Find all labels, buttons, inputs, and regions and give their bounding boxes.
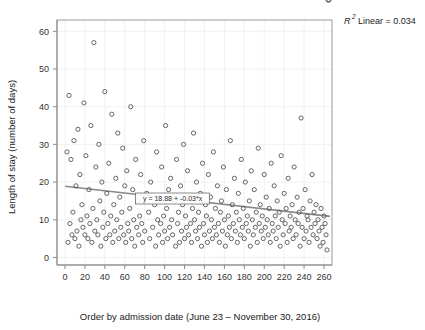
data-point <box>252 188 256 192</box>
data-point <box>207 229 211 233</box>
data-point <box>217 240 221 244</box>
data-point <box>260 214 264 218</box>
data-point <box>304 229 308 233</box>
data-point <box>85 214 89 218</box>
data-point <box>131 188 135 192</box>
data-point <box>303 188 307 192</box>
data-point <box>141 240 145 244</box>
data-point <box>264 195 268 199</box>
data-point <box>273 214 277 218</box>
data-point <box>301 206 305 210</box>
data-point <box>148 237 152 241</box>
data-point <box>283 221 287 225</box>
equation-text: y = 18.88 + -0.03*x <box>143 195 203 203</box>
x-tick-label: 160 <box>217 272 232 282</box>
data-point <box>288 214 292 218</box>
data-point <box>134 157 138 161</box>
r-squared-value-text: Linear = 0.034 <box>358 16 416 26</box>
data-point <box>311 233 315 237</box>
data-point <box>155 150 159 154</box>
data-point <box>226 214 230 218</box>
data-point <box>142 139 146 143</box>
data-point <box>173 244 177 248</box>
data-point <box>78 172 82 176</box>
data-point <box>176 210 180 214</box>
data-point <box>213 206 217 210</box>
data-point <box>114 176 118 180</box>
data-point <box>162 214 166 218</box>
data-point <box>154 244 158 248</box>
data-point <box>294 233 298 237</box>
data-point <box>122 233 126 237</box>
x-tick-label: 120 <box>177 272 192 282</box>
data-point <box>164 123 168 127</box>
data-point <box>77 244 81 248</box>
data-point <box>195 237 199 241</box>
data-point <box>286 176 290 180</box>
data-point <box>133 244 137 248</box>
data-point <box>107 161 111 165</box>
data-point <box>247 199 251 203</box>
data-point <box>324 233 328 237</box>
y-tick-label: 40 <box>39 102 49 112</box>
data-point <box>220 229 224 233</box>
data-point <box>251 233 255 237</box>
x-tick-label: 80 <box>140 272 150 282</box>
data-point <box>65 150 69 154</box>
data-point <box>310 172 314 176</box>
data-point <box>179 229 183 233</box>
data-point <box>275 199 279 203</box>
data-point <box>318 244 322 248</box>
data-point <box>272 184 276 188</box>
data-point <box>232 176 236 180</box>
data-point <box>160 165 164 169</box>
data-point <box>325 248 329 252</box>
data-point <box>178 184 182 188</box>
data-point <box>93 229 97 233</box>
data-point <box>320 225 324 229</box>
x-tick-label: 40 <box>100 272 110 282</box>
data-point <box>214 233 218 237</box>
data-point <box>88 221 92 225</box>
data-point <box>113 229 117 233</box>
data-point <box>106 221 110 225</box>
data-point <box>102 210 106 214</box>
data-point <box>224 188 228 192</box>
data-point <box>170 233 174 237</box>
data-point <box>184 225 188 229</box>
data-point <box>98 199 102 203</box>
data-point <box>205 240 209 244</box>
data-point <box>219 199 223 203</box>
data-point <box>266 233 270 237</box>
y-tick-label: 20 <box>39 177 49 187</box>
data-point <box>261 237 265 241</box>
data-point <box>112 203 116 207</box>
data-point <box>271 229 275 233</box>
x-tick-label: 0 <box>62 272 67 282</box>
data-point <box>190 206 194 210</box>
data-point <box>229 237 233 241</box>
data-point <box>92 41 96 45</box>
data-point <box>70 233 74 237</box>
data-point <box>268 240 272 244</box>
data-point <box>299 116 303 120</box>
data-point <box>165 206 169 210</box>
data-point <box>218 210 222 214</box>
data-point <box>200 161 204 165</box>
data-point <box>228 139 232 143</box>
data-point <box>211 150 215 154</box>
data-point <box>201 221 205 225</box>
data-point <box>101 225 105 229</box>
data-point <box>276 225 280 229</box>
data-point <box>308 199 312 203</box>
y-tick-label: 50 <box>39 64 49 74</box>
data-point <box>120 210 124 214</box>
data-point <box>168 176 172 180</box>
y-tick-label: 0 <box>44 253 49 263</box>
data-point <box>121 146 125 150</box>
data-point <box>175 221 179 225</box>
data-point <box>161 240 165 244</box>
data-point <box>238 233 242 237</box>
data-point <box>239 157 243 161</box>
data-point <box>86 237 90 241</box>
